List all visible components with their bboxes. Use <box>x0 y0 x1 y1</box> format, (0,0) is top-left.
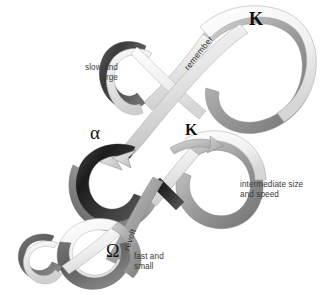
symbol-omega: Ω <box>106 241 119 262</box>
symbol-alpha: α <box>90 122 100 144</box>
label-fast-and-small: fast and small <box>134 252 204 273</box>
label-slow-and-large: slow and large <box>58 63 118 84</box>
symbol-kappa-intermediate-cycle: Κ <box>185 121 197 139</box>
panarchy-figure <box>0 0 329 295</box>
small-cycle-left-loop-light <box>23 241 62 284</box>
small-fast-cycle <box>18 219 141 290</box>
large-slow-cycle <box>99 6 316 134</box>
intermediate-cycle <box>69 131 266 231</box>
label-intermediate-size-and-speed: intermediate size and speed <box>240 180 326 201</box>
symbol-kappa-large-cycle: Κ <box>249 9 263 30</box>
diagram-canvas: slow and large intermediate size and spe… <box>0 0 329 295</box>
